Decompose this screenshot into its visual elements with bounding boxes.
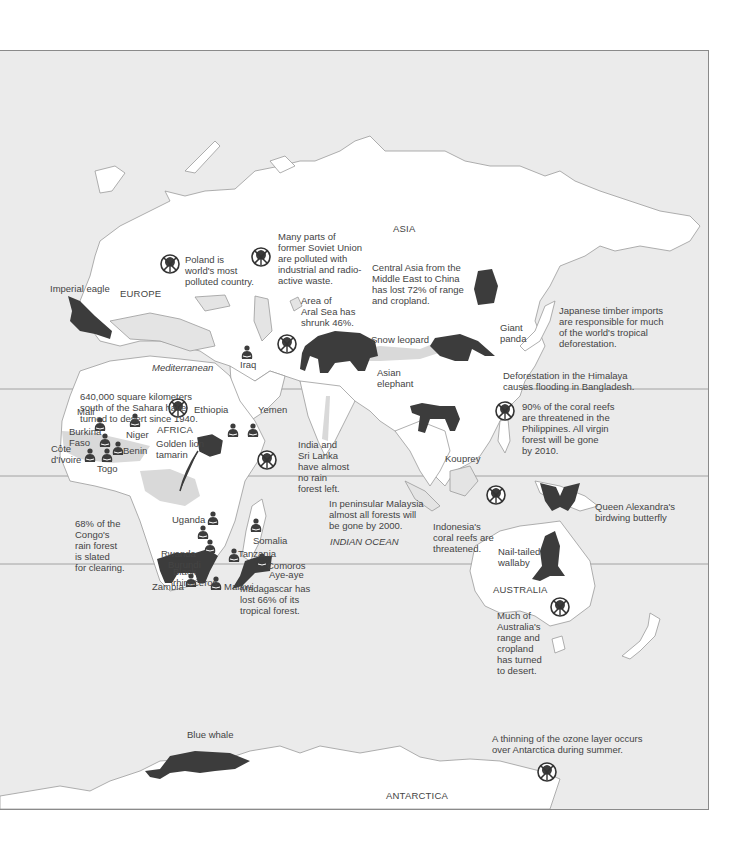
species-label-kouprey: Kouprey (445, 453, 480, 464)
country-label-rwanda: Rwanda (161, 548, 196, 559)
species-label-birdwing-butterfly: Queen Alexandra's birdwing butterfly (595, 501, 675, 523)
note-soviet-union: Many parts of former Soviet Union are po… (278, 231, 362, 286)
water-label-mediterranean: Mediterranean (152, 362, 213, 373)
country-label-uganda: Uganda (172, 514, 205, 525)
region-label-europe: EUROPE (120, 288, 161, 299)
crossed-out-tree-icon (537, 762, 557, 782)
species-label-golden-lion-tamarin: Golden lion tamarin (156, 438, 204, 460)
species-label-asian-elephant: Asian elephant (377, 367, 413, 389)
country-label-yemen: Yemen (258, 404, 287, 415)
country-label-somalia: Somalia (253, 535, 287, 546)
tasmania (552, 636, 565, 653)
svalbard (95, 166, 125, 193)
water-label-indian-ocean: INDIAN OCEAN (330, 536, 399, 547)
antarctica-landmass (0, 746, 560, 809)
crossed-out-tree-icon (550, 597, 570, 617)
crossed-out-tree-icon (277, 334, 297, 354)
country-label-cote-divoire: Côte d'Ivoire (51, 443, 81, 465)
seated-person-icon (250, 518, 262, 533)
country-label-togo: Togo (97, 463, 118, 474)
region-label-antarctica: ANTARCTICA (386, 790, 448, 801)
crossed-out-tree-icon (486, 485, 506, 505)
note-india: India and Sri Lanka have almost no rain … (298, 439, 349, 494)
note-japanese-timber: Japanese timber imports are responsible … (559, 305, 664, 349)
country-label-comoros: Comoros (267, 560, 306, 571)
seated-person-icon (247, 423, 259, 438)
country-label-niger: Niger (126, 429, 149, 440)
new-zealand (622, 613, 660, 659)
species-label-giant-panda: Giant panda (500, 322, 526, 344)
crossed-out-tree-icon (257, 450, 277, 470)
note-philippines: 90% of the coral reefs are threatened in… (522, 401, 614, 456)
country-label-ethiopia: Ethiopia (194, 404, 228, 415)
species-label-nail-tailed-wallaby: Nail-tailed wallaby (498, 546, 540, 568)
country-label-burundi: Burundi (168, 559, 201, 570)
note-malaysia: In peninsular Malaysia almost all forest… (329, 498, 424, 531)
seated-person-icon (197, 525, 209, 540)
philippines (498, 419, 510, 453)
seated-person-icon (84, 448, 96, 463)
borneo (450, 466, 478, 496)
country-label-tanzania: Tanzania (238, 548, 276, 559)
note-indonesia: Indonesia's coral reefs are threatened. (433, 521, 494, 554)
note-ozone: A thinning of the ozone layer occurs ove… (492, 733, 643, 755)
note-central-asia: Central Asia from the Middle East to Chi… (372, 262, 464, 306)
crossed-out-tree-icon (160, 254, 180, 274)
seated-person-icon (227, 423, 239, 438)
region-label-asia: ASIA (393, 223, 415, 234)
country-label-zambia: Zambia (152, 581, 184, 592)
country-label-benin: Benin (123, 445, 147, 456)
crossed-out-tree-icon (495, 401, 515, 421)
note-madagascar: Madagascar has lost 66% of its tropical … (240, 583, 310, 616)
species-label-imperial-eagle: Imperial eagle (50, 283, 110, 294)
note-sahara: 640,000 square kilometers south of the S… (80, 391, 198, 424)
seated-person-icon (101, 448, 113, 463)
species-label-snow-leopard: Snow leopard (371, 334, 429, 345)
region-label-australia: AUSTRALIA (493, 584, 548, 595)
seated-person-icon (207, 511, 219, 526)
region-label-africa: AFRICA (157, 424, 193, 435)
note-aral-sea: Area of Aral Sea has shrunk 46%. (301, 295, 355, 328)
note-congo: 68% of the Congo's rain forest is slated… (75, 518, 125, 573)
note-australia: Much of Australia's range and cropland h… (497, 610, 542, 676)
world-map: EUROPE ASIA AFRICA AUSTRALIA ANTARCTICA … (0, 50, 709, 810)
note-himalaya: Deforestation in the Himalaya causes flo… (503, 370, 635, 392)
species-label-blue-whale: Blue whale (187, 729, 233, 740)
note-poland: Poland is world's most polluted country. (185, 254, 254, 287)
novaya-zemlya (185, 141, 220, 173)
seated-person-icon (241, 345, 253, 360)
country-label-iraq: Iraq (240, 359, 256, 370)
seated-person-icon (204, 539, 216, 554)
